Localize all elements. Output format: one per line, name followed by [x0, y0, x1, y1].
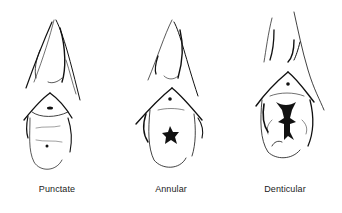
urethral-meatus [168, 97, 172, 101]
panel-denticular: Denticular [228, 0, 342, 213]
annular-opening [162, 126, 179, 144]
punctate-illustration [0, 0, 114, 213]
label-denticular: Denticular [228, 184, 342, 194]
denticular-illustration [228, 0, 342, 213]
label-punctate: Punctate [0, 184, 114, 194]
label-annular: Annular [114, 184, 228, 194]
panel-punctate: Punctate [0, 0, 114, 213]
punctate-opening [46, 145, 49, 148]
urethral-meatus [286, 82, 290, 86]
denticular-opening [276, 102, 296, 140]
urethral-meatus [47, 107, 53, 110]
panel-annular: Annular [114, 0, 228, 213]
annular-illustration [114, 0, 228, 213]
